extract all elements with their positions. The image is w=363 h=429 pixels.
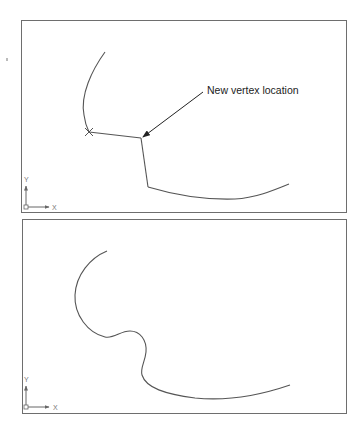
ucs-icon: Y X [24, 376, 58, 411]
callout-label: New vertex location [207, 84, 299, 96]
polyline-segment-to-vertex[interactable] [89, 132, 141, 138]
callout-arrow [143, 92, 203, 137]
bottom-arc-segment[interactable] [148, 184, 289, 199]
y-axis-label: Y [24, 176, 29, 183]
bottom-panel-drawing: Y X [24, 251, 290, 411]
x-axis-label: X [53, 404, 58, 411]
arc-segment[interactable] [83, 52, 105, 132]
top-panel-drawing: New vertex location Y X [24, 52, 299, 211]
ucs-icon: Y X [24, 176, 57, 211]
x-axis-label: X [52, 204, 57, 211]
y-axis-label: Y [24, 376, 29, 383]
smoothed-spline-curve[interactable] [75, 251, 290, 399]
polyline-segment-from-vertex[interactable] [141, 138, 148, 187]
